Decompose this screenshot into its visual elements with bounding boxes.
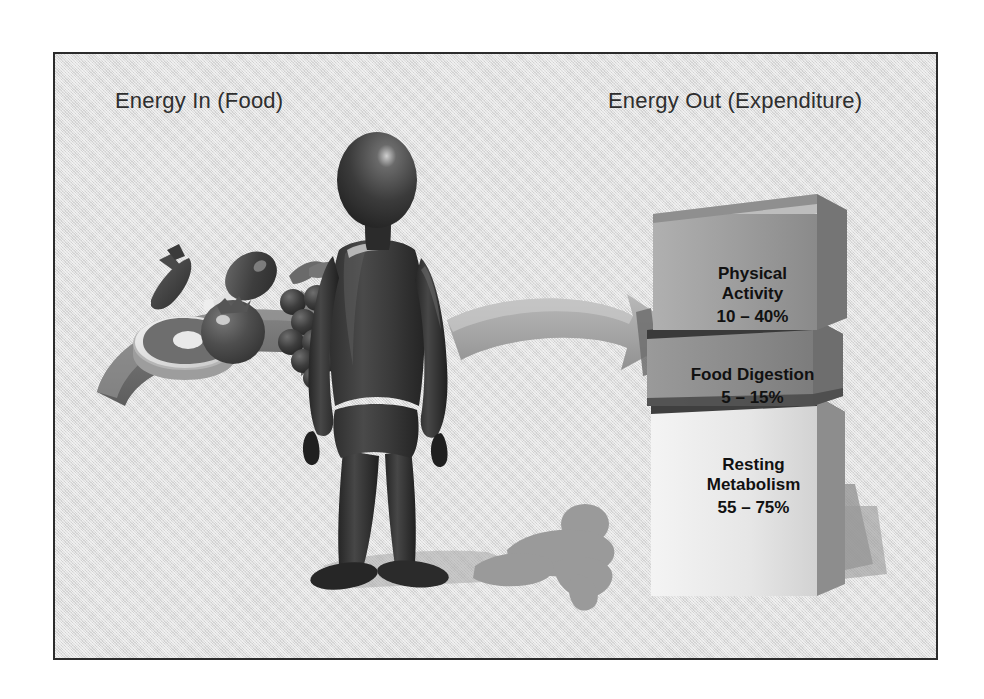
slide-canvas: Energy In (Food) Energy Out (Expenditure… [0,0,984,699]
box-physical-activity[interactable] [653,194,847,330]
chicken-drumstick-icon [203,241,286,312]
human-figure [303,132,450,594]
box-food-digestion[interactable] [647,318,843,406]
carrot-icon [151,244,191,309]
diagram-panel: Energy In (Food) Energy Out (Expenditure… [53,52,938,660]
illustration-layer [55,54,936,658]
box-resting-metabolism[interactable] [651,396,845,596]
